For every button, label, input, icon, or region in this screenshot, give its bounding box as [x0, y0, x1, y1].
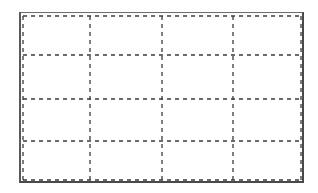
dashed-grid — [0, 0, 318, 193]
